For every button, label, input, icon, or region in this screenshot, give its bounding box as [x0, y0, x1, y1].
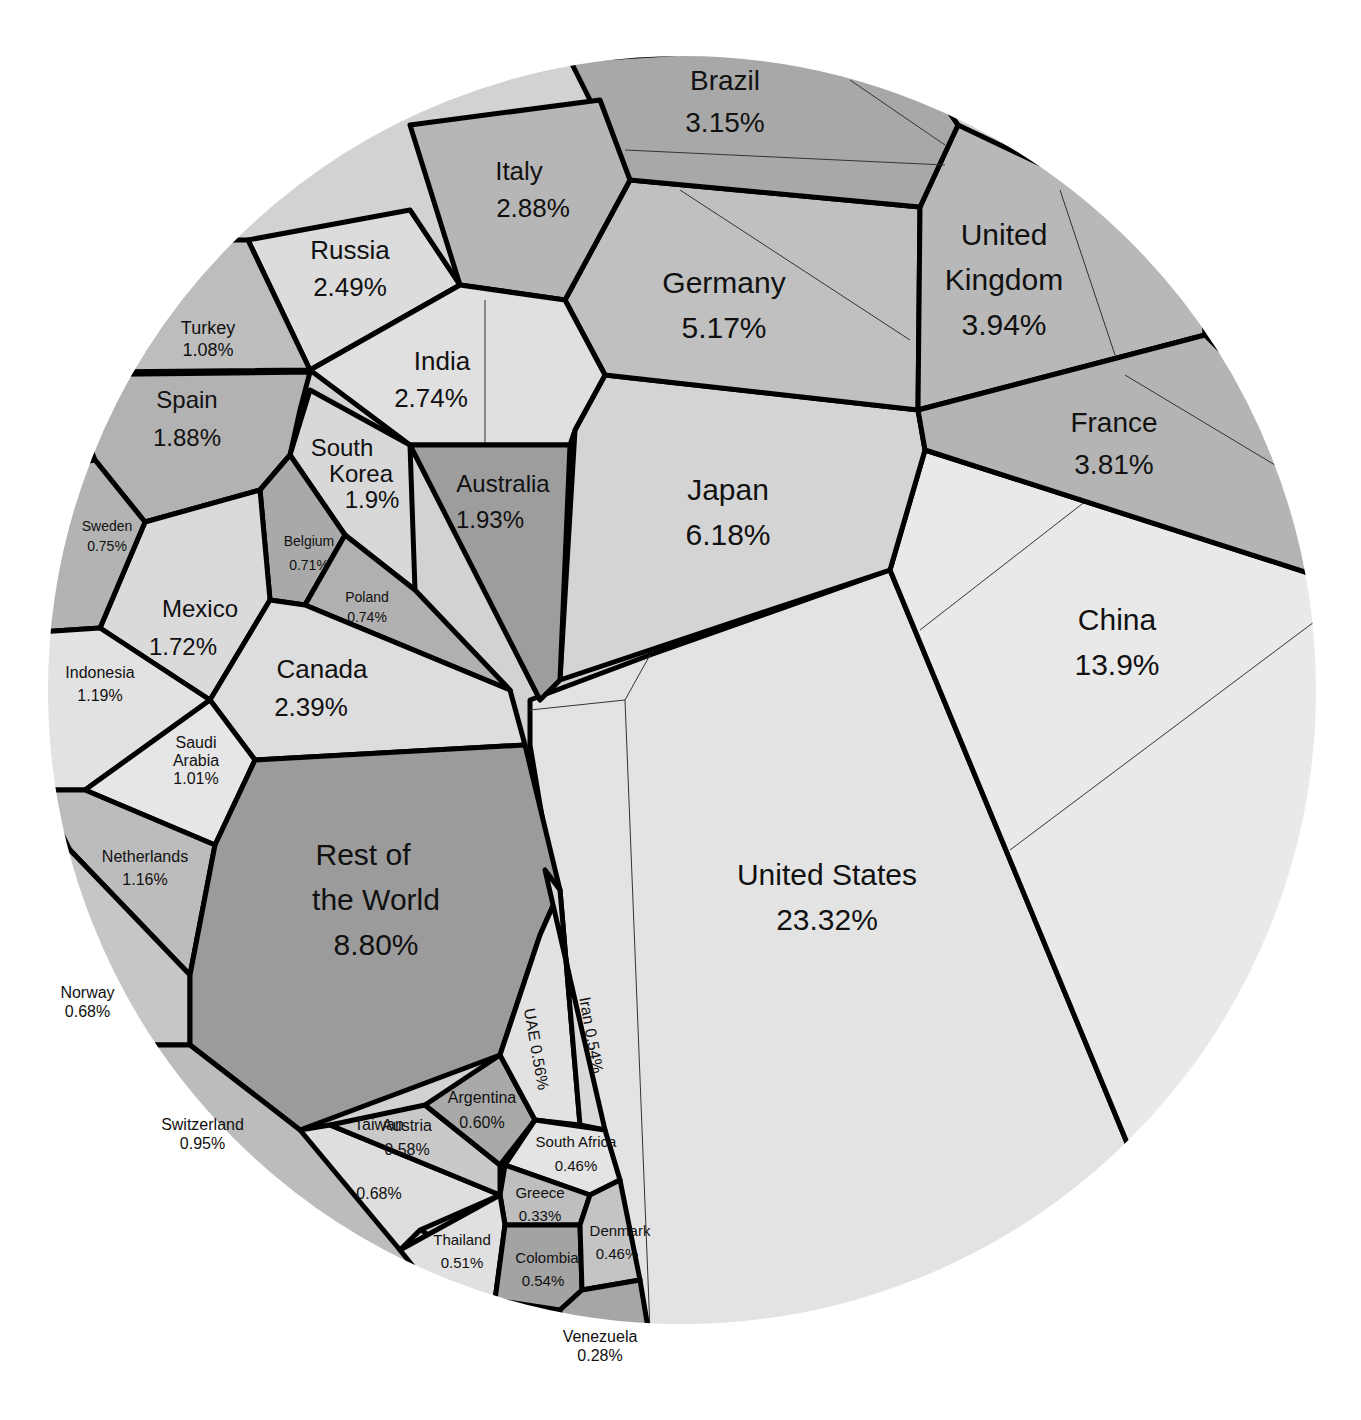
- label-india-value: 2.74%: [394, 383, 468, 413]
- label-russia-name: Russia: [310, 235, 390, 265]
- label-austria-value: 0.58%: [384, 1141, 429, 1158]
- label-canada-value: 2.39%: [274, 692, 348, 722]
- label-australia-value: 1.93%: [456, 506, 524, 533]
- label-saudi-value: 1.01%: [173, 770, 218, 787]
- label-netherlands-name: Netherlands: [102, 848, 188, 865]
- label-italy-value: 2.88%: [496, 193, 570, 223]
- label-south-africa-value: 0.46%: [555, 1157, 598, 1174]
- label-sweden-value: 0.75%: [87, 538, 127, 554]
- label-mexico-value: 1.72%: [149, 633, 217, 660]
- label-japan-value: 6.18%: [685, 518, 770, 551]
- label-argentina-value: 0.60%: [459, 1114, 504, 1131]
- label-colombia-value: 0.54%: [522, 1272, 565, 1289]
- label-saudi-name2: Arabia: [173, 752, 219, 769]
- label-turkey-value: 1.08%: [182, 340, 233, 360]
- label-spain-value: 1.88%: [153, 424, 221, 451]
- label-south-korea-name2: Korea: [329, 460, 394, 487]
- label-germany-name: Germany: [662, 266, 785, 299]
- label-united-states-name: United States: [737, 858, 917, 891]
- label-indonesia-value: 1.19%: [77, 687, 122, 704]
- label-norway-value: 0.68%: [40, 1002, 135, 1021]
- label-uk-name1: United: [961, 218, 1048, 251]
- label-norway-name: Norway: [40, 983, 135, 1002]
- label-greece-value: 0.33%: [519, 1207, 562, 1224]
- label-switzerland: Switzerland 0.95%: [140, 1115, 265, 1153]
- label-saudi-name1: Saudi: [176, 734, 217, 751]
- label-turkey-name: Turkey: [181, 318, 235, 338]
- cell-colombia[interactable]: [495, 1225, 582, 1310]
- label-denmark-value: 0.46%: [596, 1245, 639, 1262]
- label-china-name: China: [1078, 603, 1157, 636]
- label-mexico-name: Mexico: [162, 595, 238, 622]
- label-spain-name: Spain: [156, 386, 217, 413]
- label-brazil-value: 3.15%: [685, 107, 764, 138]
- label-netherlands-value: 1.16%: [122, 871, 167, 888]
- label-belgium-value: 0.71%: [289, 557, 329, 573]
- label-russia-value: 2.49%: [313, 272, 387, 302]
- label-taiwan-value: 0.68%: [356, 1185, 401, 1202]
- label-austria-name: Austria: [382, 1117, 432, 1134]
- label-australia-name: Australia: [456, 470, 550, 497]
- voronoi-treemap-chart: United States 23.32% China 13.9% Rest of…: [0, 0, 1361, 1420]
- label-norway: Norway 0.68%: [40, 983, 135, 1021]
- label-south-korea-name1: South: [311, 434, 374, 461]
- label-poland-name: Poland: [345, 589, 389, 605]
- label-switzerland-value: 0.95%: [140, 1134, 265, 1153]
- label-uk-value: 3.94%: [961, 308, 1046, 341]
- label-south-africa-name: South Africa: [536, 1133, 618, 1150]
- label-japan-name: Japan: [687, 473, 769, 506]
- label-colombia-name: Colombia: [515, 1249, 579, 1266]
- label-rest-value: 8.80%: [333, 928, 418, 961]
- label-south-korea-value: 1.9%: [345, 486, 400, 513]
- label-sweden-name: Sweden: [82, 518, 133, 534]
- label-thailand-value: 0.51%: [441, 1254, 484, 1271]
- label-venezuela-value: 0.28%: [545, 1346, 655, 1365]
- label-rest-name1: Rest of: [315, 838, 411, 871]
- label-denmark-name: Denmark: [590, 1222, 651, 1239]
- label-poland-value: 0.74%: [347, 609, 387, 625]
- label-rest-name2: the World: [312, 883, 440, 916]
- label-venezuela: Venezuela 0.28%: [545, 1327, 655, 1365]
- label-united-states-value: 23.32%: [776, 903, 878, 936]
- label-greece-name: Greece: [515, 1184, 564, 1201]
- label-argentina-name: Argentina: [448, 1089, 517, 1106]
- label-belgium-name: Belgium: [284, 533, 335, 549]
- label-switzerland-name: Switzerland: [140, 1115, 265, 1134]
- label-venezuela-name: Venezuela: [545, 1327, 655, 1346]
- label-germany-value: 5.17%: [681, 311, 766, 344]
- label-uk-name2: Kingdom: [945, 263, 1063, 296]
- label-france-value: 3.81%: [1074, 449, 1153, 480]
- label-thailand-name: Thailand: [433, 1231, 491, 1248]
- label-canada-name: Canada: [276, 654, 368, 684]
- label-brazil-name: Brazil: [690, 65, 760, 96]
- label-india-name: India: [414, 346, 471, 376]
- label-indonesia-name: Indonesia: [65, 664, 134, 681]
- label-france-name: France: [1070, 407, 1157, 438]
- label-italy-name: Italy: [495, 156, 543, 186]
- label-china-value: 13.9%: [1074, 648, 1159, 681]
